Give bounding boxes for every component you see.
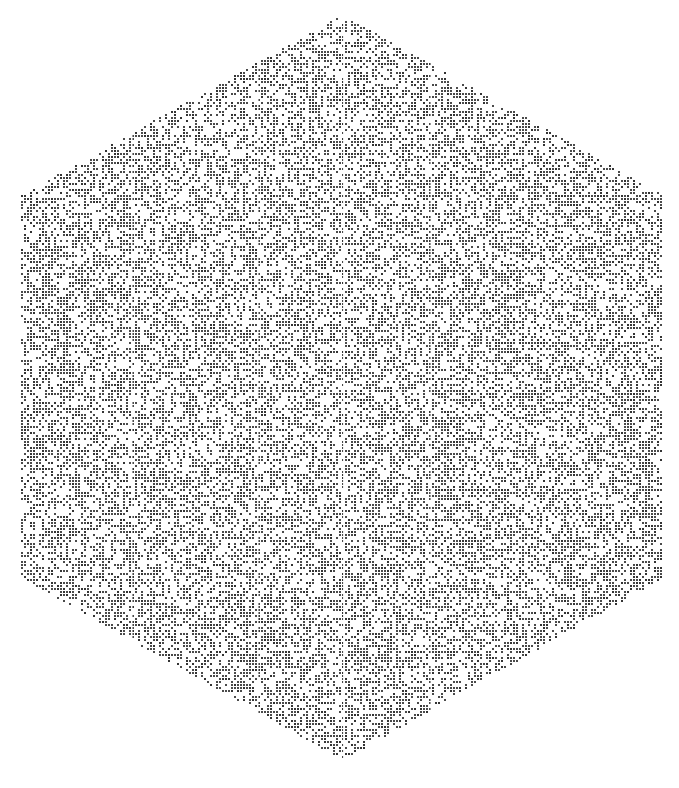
noise-hexagon-figure [0,0,679,788]
hexagon-noise-canvas [0,0,679,788]
